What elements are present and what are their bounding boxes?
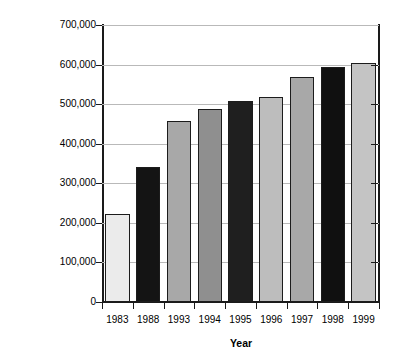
x-axis-tick-label: 1998 [317,314,348,325]
y-axis-tick-label: 100,000 [32,257,96,267]
y-axis-tick-label: 300,000 [32,178,96,188]
y-axis-tick-label: 700,000 [32,20,96,30]
x-axis-tick-mark [194,302,195,309]
y-axis-tick-label: 600,000 [32,60,96,70]
y-axis-tick-label: 0 [32,297,96,307]
bar-chart: Population 0100,000200,000300,000400,000… [0,0,399,360]
y-axis-tick-mark [96,144,102,145]
x-axis-tick-label: 1994 [194,314,225,325]
bar [136,167,160,302]
y-axis-tick-label: 400,000 [32,139,96,149]
y-axis-tick-label: 500,000 [32,99,96,109]
x-axis-tick-mark [164,302,165,309]
bar [228,101,252,302]
y-axis-tick-mark [96,104,102,105]
x-axis-tick-mark [317,302,318,309]
right-axis-tick-mark [371,183,378,184]
y-axis-tick-mark [96,262,102,263]
y-axis-tick-mark [96,25,102,26]
y-axis-tick-mark [96,183,102,184]
bar [167,121,191,302]
bar [290,77,314,302]
x-axis-tick-label: 1997 [287,314,318,325]
x-axis-tick-mark [102,302,103,309]
bar [321,67,345,302]
x-axis-tick-mark [379,302,380,309]
x-axis-tick-label: 1995 [225,314,256,325]
right-axis-tick-mark [371,223,378,224]
x-axis-tick-label: 1996 [256,314,287,325]
right-axis-tick-mark [371,262,378,263]
x-axis-tick-label: 1999 [348,314,379,325]
x-axis-tick-mark [287,302,288,309]
y-axis-tick-mark [96,65,102,66]
bar [105,214,129,302]
y-axis-tick-labels: 0100,000200,000300,000400,000500,000600,… [30,0,96,360]
x-axis-tick-mark [348,302,349,309]
x-axis-tick-label: 1993 [164,314,195,325]
x-axis-tick-label: 1983 [102,314,133,325]
bar-series [102,25,379,302]
x-axis-tick-mark [256,302,257,309]
y-axis-tick-mark [96,223,102,224]
right-axis-tick-mark [371,65,378,66]
x-axis-tick-mark [133,302,134,309]
x-axis-tick-mark [225,302,226,309]
bar [259,97,283,302]
right-axis-tick-mark [371,144,378,145]
x-axis-tick-label: 1988 [133,314,164,325]
y-axis-tick-label: 200,000 [32,218,96,228]
right-axis-tick-mark [371,104,378,105]
bar [198,109,222,303]
x-axis-title: Year [102,337,380,349]
